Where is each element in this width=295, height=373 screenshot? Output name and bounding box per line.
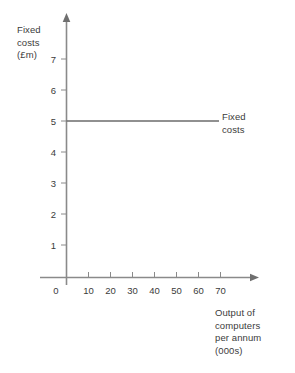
y-tick-label-7: 7	[42, 54, 56, 65]
y-tick-label-2: 2	[42, 209, 56, 220]
x-axis-title-line-3: per annum	[215, 332, 261, 343]
y-tick-label-3: 3	[42, 178, 56, 189]
fixed-costs-chart: 7 6 5 4 3 2 1 0 10 20 30 40 50 60 70 Fix…	[0, 0, 295, 373]
x-tick-label-60: 60	[189, 285, 209, 296]
series-label-line-1: Fixed	[222, 111, 246, 122]
x-tick-label-20: 20	[101, 285, 121, 296]
x-tick-label-0: 0	[46, 285, 66, 296]
y-axis-title-line-1: Fixed	[17, 24, 41, 35]
x-axis-title-line-4: (000s)	[215, 345, 243, 356]
y-axis-title-line-3: (£m)	[17, 49, 37, 60]
x-tick-label-10: 10	[79, 285, 99, 296]
series-label-line-2: costs	[222, 124, 245, 135]
series-label-fixed-costs: Fixedcosts	[222, 111, 246, 136]
x-tick-label-50: 50	[167, 285, 187, 296]
x-tick-label-30: 30	[123, 285, 143, 296]
y-axis-title-line-2: costs	[17, 37, 40, 48]
y-tick-label-6: 6	[42, 85, 56, 96]
y-axis-arrow-icon	[63, 13, 71, 22]
x-axis-arrow-icon	[250, 274, 259, 282]
y-tick-label-1: 1	[42, 240, 56, 251]
y-axis-title: Fixedcosts(£m)	[17, 24, 41, 62]
y-tick-label-5: 5	[42, 116, 56, 127]
x-tick-label-70: 70	[211, 285, 231, 296]
x-axis-title-line-1: Output of	[215, 307, 255, 318]
x-axis-title: Output ofcomputersper annum(000s)	[215, 307, 261, 357]
x-axis-title-line-2: computers	[215, 320, 260, 331]
y-tick-label-4: 4	[42, 147, 56, 158]
x-tick-label-40: 40	[145, 285, 165, 296]
